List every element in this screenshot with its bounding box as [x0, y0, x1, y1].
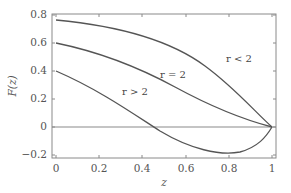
x-tick-label: 0	[53, 162, 60, 174]
label-r-less-2: r < 2	[226, 53, 252, 64]
y-axis-label: F(z)	[6, 75, 18, 97]
x-tick-label: 0.2	[91, 162, 108, 174]
x-tick-label: 0.8	[221, 162, 238, 174]
label-r-greater-2: r > 2	[122, 86, 148, 97]
curve-r-greater-2	[56, 71, 272, 153]
y-tick-label: 0.6	[30, 36, 47, 48]
y-tick-labels: 0.8 0.6 0.4 0.2 0 −0.2	[22, 8, 48, 160]
plot-frame	[52, 14, 276, 158]
x-tick-label: 0.6	[178, 162, 195, 174]
x-tick-label: 1	[269, 162, 276, 174]
x-axis-label: z	[160, 176, 167, 188]
x-tick-label: 0.4	[134, 162, 151, 174]
chart-canvas: r < 2 r = 2 r > 2 0.8 0.6 0.4 0.2 0 −0.2…	[0, 0, 291, 193]
x-ticks	[56, 14, 272, 158]
y-tick-label: −0.2	[22, 148, 48, 160]
y-tick-label: 0.2	[30, 92, 47, 104]
y-tick-label: 0.4	[30, 64, 47, 76]
y-tick-label: 0.8	[30, 8, 47, 20]
y-tick-label: 0	[40, 120, 47, 132]
x-tick-labels: 0 0.2 0.4 0.6 0.8 1	[53, 162, 276, 174]
label-r-equal-2: r = 2	[160, 69, 186, 80]
